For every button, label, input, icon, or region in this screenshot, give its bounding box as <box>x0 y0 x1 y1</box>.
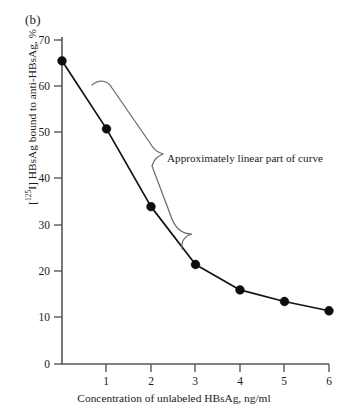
y-axis-title-isotope: 125 <box>24 190 33 201</box>
y-axis-title: [125I] HBsAg bound to anti-HBsAg, % <box>24 0 38 247</box>
x-axis-ticks <box>106 364 329 372</box>
y-tick-label: 70 <box>39 34 51 46</box>
data-point <box>325 306 334 315</box>
y-axis-title-suffix: I] HBsAg bound to anti-HBsAg, % <box>26 29 38 190</box>
y-tick-label: 50 <box>39 126 51 138</box>
chart-plot-area: 70 60 50 40 30 20 10 0 1 2 3 4 5 6 <box>0 0 348 409</box>
x-tick-label: 6 <box>326 375 332 387</box>
data-series-points <box>58 56 334 315</box>
brace-annotation <box>92 81 192 249</box>
y-axis-tick-labels: 70 60 50 40 30 20 10 0 <box>39 34 51 370</box>
y-tick-label: 20 <box>39 265 51 277</box>
y-axis-ticks <box>54 40 62 364</box>
y-tick-label: 30 <box>39 219 51 231</box>
data-point <box>236 286 245 295</box>
y-axis-title-prefix: [ <box>26 201 38 205</box>
y-tick-label: 60 <box>39 80 51 92</box>
x-axis-title: Concentration of unlabeled HBsAg, ng/ml <box>0 392 348 404</box>
x-tick-label: 2 <box>148 375 154 387</box>
x-tick-label: 1 <box>103 375 109 387</box>
figure-panel: (b) 70 60 50 40 30 20 10 0 <box>0 0 348 409</box>
axis-lines <box>62 37 329 364</box>
linear-part-annotation: Approximately linear part of curve <box>167 152 323 164</box>
x-tick-label: 5 <box>281 375 287 387</box>
data-point <box>58 56 67 65</box>
y-tick-label: 40 <box>39 172 51 184</box>
x-tick-label: 3 <box>192 375 198 387</box>
data-point <box>280 297 289 306</box>
data-series-line <box>62 61 329 311</box>
data-point <box>147 202 156 211</box>
x-tick-label: 4 <box>237 375 243 387</box>
data-point <box>102 124 111 133</box>
y-tick-label: 10 <box>39 311 51 323</box>
data-point <box>191 260 200 269</box>
y-tick-label: 0 <box>44 358 50 370</box>
x-axis-tick-labels: 1 2 3 4 5 6 <box>103 375 332 387</box>
